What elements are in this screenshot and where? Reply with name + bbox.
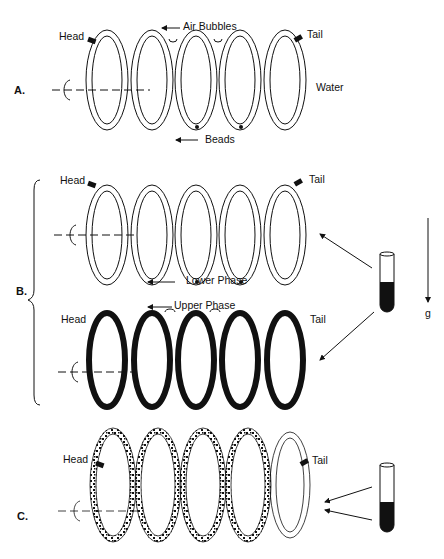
tail-label-c: Tail <box>312 454 328 466</box>
bead <box>195 125 199 129</box>
head-label-a: Head <box>59 30 84 42</box>
gravity-label: g <box>425 307 431 319</box>
arrow-c-1 <box>325 487 372 502</box>
beads-label: Beads <box>205 133 235 145</box>
head-label-b-bottom: Head <box>61 313 86 325</box>
head-label-b-top: Head <box>60 174 85 186</box>
tail-label-b-bottom: Tail <box>310 313 326 325</box>
brace-b <box>28 180 40 405</box>
air-bubbles-label: Air Bubbles <box>183 20 237 32</box>
arrow-tube-to-top <box>320 234 372 268</box>
test-tube-b <box>380 252 394 312</box>
panel-a-coil <box>52 30 306 130</box>
arrow-c-2 <box>325 510 372 520</box>
bead <box>239 125 243 129</box>
tail-label-b-top: Tail <box>309 173 325 185</box>
tail-label-a: Tail <box>307 28 323 40</box>
panel-label-a: A. <box>14 84 25 96</box>
panel-c-coil <box>58 428 310 542</box>
panel-b-coil-bottom <box>89 313 303 407</box>
panel-b-coil-top <box>54 185 306 285</box>
test-tube-c <box>380 463 394 532</box>
lower-phase-label: Lower Phase <box>186 274 247 286</box>
water-label: Water <box>316 81 344 93</box>
panel-label-b: B. <box>16 285 27 297</box>
head-label-c: Head <box>63 453 88 465</box>
air-bubble <box>214 39 222 42</box>
arrow-tube-to-bottom <box>320 312 374 360</box>
air-bubble <box>169 39 177 42</box>
upper-phase-label: Upper Phase <box>174 299 235 311</box>
panel-label-c: C. <box>17 510 28 522</box>
